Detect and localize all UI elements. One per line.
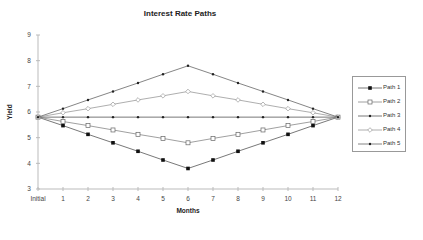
series-4 (36, 89, 341, 119)
legend-item-path-2: Path 2 (353, 97, 407, 107)
y-tick-label: 5 (27, 134, 31, 141)
legend-marker-icon (356, 139, 386, 149)
legend-item-path-5: Path 5 (353, 139, 407, 149)
x-tick-label: 12 (334, 195, 342, 202)
y-tick-label: 8 (27, 57, 31, 64)
y-tick-label: 3 (27, 185, 31, 192)
legend-marker-icon (356, 97, 386, 107)
y-tick-label: 9 (27, 31, 31, 38)
legend-label: Path 5 (383, 140, 400, 146)
x-tick-label: 8 (236, 195, 240, 202)
x-tick-label: 4 (136, 195, 140, 202)
x-tick-label: 11 (310, 195, 317, 202)
legend-item-path-1: Path 1 (353, 83, 407, 93)
x-tick-label: 1 (61, 195, 65, 202)
y-tick-label: 6 (27, 108, 31, 115)
legend-label: Path 4 (383, 126, 400, 132)
legend-label: Path 2 (383, 98, 400, 104)
y-axis-label: Yield (6, 104, 13, 119)
legend-item-path-3: Path 3 (353, 111, 407, 121)
legend-label: Path 3 (383, 112, 400, 118)
legend-marker-icon (356, 83, 386, 93)
x-axis-label: Months (176, 207, 199, 214)
x-tick-label: Initial (30, 195, 46, 202)
x-tick-label: 5 (161, 195, 165, 202)
series-2 (36, 115, 340, 145)
x-tick-label: 3 (111, 195, 115, 202)
x-tick-label: 7 (211, 195, 215, 202)
x-tick-label: 10 (284, 195, 292, 202)
legend: Path 1Path 2Path 3Path 4Path 5 (352, 76, 406, 152)
x-tick-label: 9 (261, 195, 265, 202)
legend-label: Path 1 (383, 84, 400, 90)
x-tick-label: 2 (86, 195, 90, 202)
x-tick-label: 6 (186, 195, 190, 202)
y-tick-label: 4 (27, 160, 31, 167)
legend-marker-icon (356, 111, 386, 121)
y-tick-label: 7 (27, 83, 31, 90)
legend-item-path-4: Path 4 (353, 125, 407, 135)
series-3 (37, 116, 339, 118)
legend-marker-icon (356, 125, 386, 135)
